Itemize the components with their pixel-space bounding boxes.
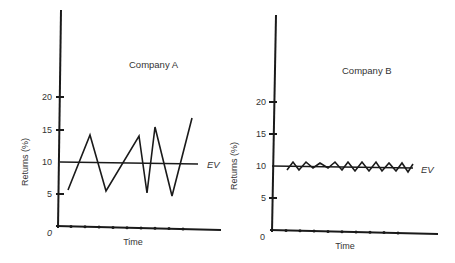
ev-line — [60, 162, 198, 164]
y-tick-label: 5 — [261, 193, 266, 203]
chart-title: Company B — [342, 65, 392, 76]
chart-title: Company A — [129, 59, 179, 70]
y-axis — [272, 15, 276, 232]
y-axis — [58, 10, 61, 228]
chart-company-a: 20 15 10 5 0 EV Company A Time Returns (… — [20, 10, 221, 247]
x-axis — [270, 230, 438, 234]
origin-label: 0 — [47, 228, 52, 238]
y-tick-label: 10 — [42, 157, 52, 167]
x-axis-label: Time — [335, 241, 355, 251]
y-tick-label: 20 — [256, 97, 266, 107]
company-a-returns-line — [68, 118, 192, 196]
y-tick-label: 10 — [256, 161, 266, 171]
ev-label: EV — [207, 159, 221, 170]
y-axis-label: Returns (%) — [20, 138, 30, 186]
y-tick-label: 15 — [42, 125, 52, 135]
chart-company-b: 20 15 10 5 0 EV Company B Time Returns (… — [229, 15, 438, 251]
y-tick-label: 5 — [47, 189, 52, 199]
x-axis-label: Time — [123, 237, 143, 247]
x-axis — [56, 226, 221, 230]
origin-label: 0 — [260, 232, 265, 242]
y-axis-label: Returns (%) — [229, 142, 239, 190]
y-tick-label: 20 — [42, 92, 52, 102]
y-tick-label: 15 — [256, 129, 266, 139]
comparison-figure: 20 15 10 5 0 EV Company A Time Returns (… — [0, 0, 455, 263]
ev-label: EV — [421, 164, 435, 175]
